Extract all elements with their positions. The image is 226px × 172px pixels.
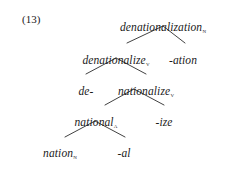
tree-node-denationalize: denationalizeV: [82, 55, 149, 67]
tree-node-label: de-: [79, 85, 94, 97]
tree-node-label: -ize: [155, 116, 172, 128]
tree-node-label: -ation: [169, 54, 197, 66]
tree-node-category-N: N: [202, 26, 206, 35]
tree-node-label: nationalize: [118, 85, 170, 97]
tree-node-denationalization: denationalizationN: [120, 22, 206, 34]
tree-node-category-N: N: [73, 152, 77, 161]
tree-node-category-V: V: [146, 59, 150, 68]
tree-node-category-V: V: [170, 90, 174, 99]
tree-node-label: denationalization: [120, 21, 202, 33]
tree-node-al: -al: [117, 148, 130, 160]
tree-node-label: denationalize: [82, 54, 145, 66]
tree-node-ize: -ize: [155, 117, 172, 129]
tree-node-de: de-: [79, 86, 94, 98]
tree-node-national: nationalA: [75, 117, 118, 129]
example-number: (13): [22, 14, 40, 25]
tree-node-label: national: [75, 116, 114, 128]
tree-node-ation: -ation: [169, 55, 197, 67]
tree-node-label: nation: [43, 147, 73, 159]
tree-node-label: -al: [117, 147, 130, 159]
tree-node-nation: nationN: [43, 148, 77, 160]
figure-canvas: (13) denationalizationNdenationalizeV-at…: [0, 0, 226, 172]
tree-node-category-A: A: [114, 121, 118, 130]
tree-node-nationalize: nationalizeV: [118, 86, 174, 98]
